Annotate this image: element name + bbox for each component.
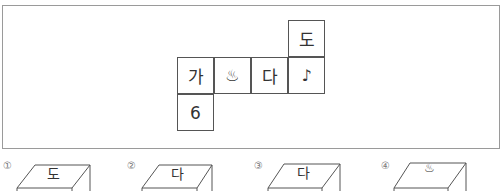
net-cell-top-do: 도: [288, 20, 325, 57]
net-cell-da: 다: [251, 57, 288, 94]
cube-drawing: ♨: [391, 158, 471, 191]
option-number: ③: [254, 160, 263, 171]
net-cell-ga: 가: [177, 57, 214, 94]
option-number: ①: [3, 160, 12, 171]
top-face-label: 다: [171, 163, 184, 183]
net-cell-music-note-icon: ♪: [288, 57, 325, 94]
net-cell-hot-springs-icon: ♨: [214, 57, 251, 94]
net-cell-six: 6: [177, 94, 214, 131]
option-3[interactable]: ③ 다: [251, 158, 371, 191]
cube-drawing: 다: [139, 158, 219, 191]
option-2[interactable]: ② 다: [124, 158, 244, 191]
option-4[interactable]: ④ ♨: [378, 158, 498, 191]
option-number: ④: [381, 160, 390, 171]
option-number: ②: [127, 160, 136, 171]
cube-drawing: 도: [14, 158, 94, 191]
top-face-label: 다: [297, 162, 310, 182]
hot-springs-icon: ♨: [424, 161, 435, 175]
option-1[interactable]: ① 도: [0, 158, 120, 191]
cube-drawing: 다: [265, 158, 345, 191]
top-face-label: 도: [47, 163, 60, 183]
